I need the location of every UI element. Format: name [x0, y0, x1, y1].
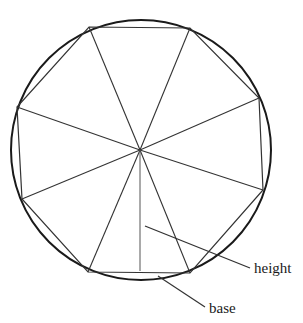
radius-spoke [17, 107, 140, 150]
inscribed-polygon-diagram: height base [0, 0, 303, 323]
radius-spoke [89, 27, 140, 150]
height-label: height [254, 260, 292, 276]
base-label: base [209, 300, 236, 316]
radius-spoke [140, 150, 263, 190]
base-leader-line [158, 276, 205, 307]
height-leader-line [145, 226, 250, 268]
radius-spoke [140, 150, 190, 273]
